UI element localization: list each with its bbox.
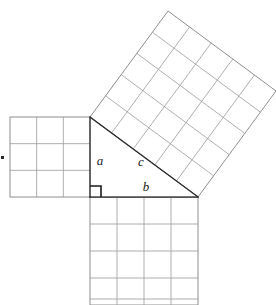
- corner-dot-marker: [1, 156, 4, 159]
- square-c-outline: [90, 11, 276, 197]
- right-angle-icon: [90, 186, 101, 197]
- label-hypotenuse-c: c: [138, 154, 144, 169]
- square-c-grid: [106, 27, 261, 181]
- square-b-grid: [90, 197, 198, 305]
- square-a-grid: [10, 117, 90, 197]
- square-on-leg-a: [10, 117, 90, 197]
- pythagorean-figure: a c b: [0, 0, 276, 305]
- label-leg-b: b: [143, 179, 150, 194]
- pythagorean-diagram: a c b: [0, 0, 276, 305]
- square-on-hypotenuse-c: [90, 11, 276, 197]
- square-a-outline: [10, 117, 90, 197]
- square-on-leg-b: [90, 197, 198, 305]
- label-leg-a: a: [97, 153, 104, 168]
